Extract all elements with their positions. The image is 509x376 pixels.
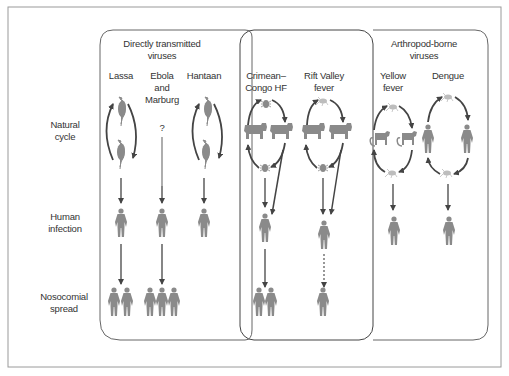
- arrows-to-human-infection: [121, 150, 448, 214]
- row-label-human-infection: Human infection: [48, 211, 82, 235]
- virus-name-line: and: [145, 82, 179, 94]
- virus-name-line: fever: [380, 82, 406, 94]
- group-title-line: viruses: [123, 50, 200, 62]
- row-label-line: Natural: [50, 119, 79, 131]
- virus-name-line: Yellow: [380, 70, 406, 82]
- ebola-unknown-reservoir-mark: ?: [159, 122, 164, 134]
- group-title-line: Arthropod-borne: [391, 38, 457, 50]
- virus-label-lassa: Lassa: [109, 70, 133, 82]
- virus-label-ebola-marburg: Ebola and Marburg: [145, 70, 179, 106]
- virus-name-line: fever: [304, 82, 344, 94]
- row-label-line: Nosocomial: [40, 291, 88, 303]
- dengue-natural-cycle: [422, 93, 473, 178]
- row-label-natural-cycle: Natural cycle: [50, 119, 79, 143]
- virus-name-line: Crimean–: [245, 70, 287, 82]
- lassa-natural-cycle: [107, 97, 137, 169]
- group-title-line: Directly transmitted: [123, 38, 200, 50]
- row-label-nosocomial-spread: Nosocomial spread: [40, 291, 88, 315]
- group-title-line: viruses: [391, 50, 457, 62]
- virus-label-dengue: Dengue: [432, 70, 464, 82]
- virus-name-line: Lassa: [109, 70, 133, 82]
- yellow-fever-natural-cycle: [370, 103, 417, 178]
- virus-name-line: Ebola: [145, 70, 179, 82]
- group-title-directly-transmitted: Directly transmitted viruses: [123, 38, 200, 62]
- row-label-line: spread: [40, 303, 88, 315]
- virus-name-line: Hantaan: [187, 70, 222, 82]
- virus-label-hantaan: Hantaan: [187, 70, 222, 82]
- transmission-diagram: Natural cycle Human infection Nosocomial…: [0, 0, 509, 376]
- virus-label-rift-valley: Rift Valley fever: [304, 70, 344, 94]
- virus-name-line: Rift Valley: [304, 70, 344, 82]
- virus-name-line: Dengue: [432, 70, 464, 82]
- row-label-line: Human: [48, 211, 82, 223]
- cchf-natural-cycle: [244, 100, 293, 172]
- virus-name-line: Marburg: [145, 94, 179, 106]
- virus-label-cchf: Crimean– Congo HF: [245, 70, 287, 94]
- hantaan-natural-cycle: [193, 97, 223, 169]
- virus-name-line: Congo HF: [245, 82, 287, 94]
- nosocomial-row: [108, 287, 329, 316]
- rvf-natural-cycle: [302, 97, 352, 172]
- virus-label-yellow-fever: Yellow fever: [380, 70, 406, 94]
- arrows-to-nosocomial: [121, 244, 324, 287]
- group-title-arthropod-borne: Arthropod-borne viruses: [391, 38, 457, 62]
- row-label-line: infection: [48, 223, 82, 235]
- row-label-line: cycle: [50, 131, 79, 143]
- human-infection-row: [115, 208, 455, 249]
